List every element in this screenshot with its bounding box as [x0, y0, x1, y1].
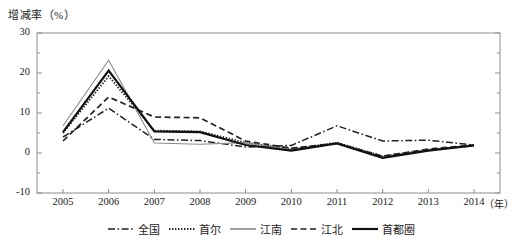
y-tick-label: 30 [4, 26, 30, 37]
series-line [63, 108, 474, 147]
chart-legend: 全国首尔江南江北首都圈 [0, 218, 522, 240]
legend-item-label: 全国 [138, 221, 160, 237]
x-tick-label: 2012 [363, 196, 403, 207]
legend-item[interactable]: 江北 [291, 221, 343, 237]
x-axis-unit-label: （年） [484, 196, 514, 211]
x-tick-label: 2007 [134, 196, 174, 207]
x-tick-label: 2008 [180, 196, 220, 207]
x-tick-label: 2009 [226, 196, 266, 207]
legend-item-label: 江北 [321, 221, 343, 237]
legend-item-label: 江南 [260, 221, 282, 237]
legend-line-swatch [169, 224, 195, 234]
y-tick-label: 10 [4, 106, 30, 117]
x-tick-label: 2011 [317, 196, 357, 207]
x-tick-label: 2005 [43, 196, 83, 207]
legend-item[interactable]: 首尔 [169, 221, 221, 237]
legend-line-swatch [291, 224, 317, 234]
legend-item[interactable]: 首都圈 [352, 221, 415, 237]
legend-item[interactable]: 江南 [230, 221, 282, 237]
series-line [63, 60, 474, 156]
y-tick-label: -10 [4, 186, 30, 197]
legend-line-swatch [230, 224, 256, 234]
y-tick-label: 0 [4, 146, 30, 157]
x-tick-label: 2010 [271, 196, 311, 207]
legend-item-label: 首都圈 [382, 221, 415, 237]
line-chart: 增减率（%） 3020100-10 2005200620072008200920… [0, 0, 522, 242]
legend-item-label: 首尔 [199, 221, 221, 237]
x-tick-label: 2013 [408, 196, 448, 207]
legend-item[interactable]: 全国 [108, 221, 160, 237]
y-tick-label: 20 [4, 66, 30, 77]
legend-line-swatch [352, 224, 378, 234]
legend-line-swatch [108, 224, 134, 234]
x-tick-label: 2006 [89, 196, 129, 207]
